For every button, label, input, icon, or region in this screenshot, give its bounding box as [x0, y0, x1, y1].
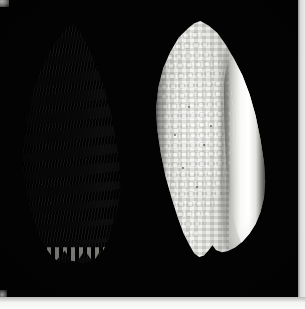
- shell-body-banded: [18, 24, 128, 264]
- screenshot-root: Banded shell, dorsal view White shell, a…: [0, 0, 305, 309]
- plate-edge-right: [298, 0, 305, 297]
- shadow-right-edge: [150, 21, 270, 257]
- surface-speck: [203, 144, 205, 146]
- serrated-base-teeth: [31, 247, 115, 264]
- scan-artifact-top-left: [0, 0, 9, 7]
- specimen-photograph: Banded shell, dorsal view White shell, a…: [0, 0, 298, 297]
- scan-artifact-bottom-left: [0, 290, 7, 297]
- surface-speck: [210, 125, 212, 127]
- shell-left-label: Banded shell, dorsal view: [18, 24, 19, 25]
- shell-right-label: White shell, aperture view: [150, 21, 151, 22]
- plate-edge-bottom: [0, 297, 305, 309]
- shell-specimen-white: White shell, aperture view: [150, 21, 270, 257]
- shadow-right-edge: [18, 24, 128, 264]
- shell-body-white: [150, 21, 270, 257]
- shell-specimen-banded: Banded shell, dorsal view: [18, 24, 128, 264]
- surface-speck: [196, 186, 198, 188]
